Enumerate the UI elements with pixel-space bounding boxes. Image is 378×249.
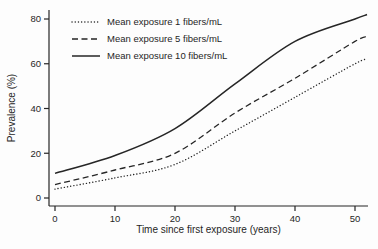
- x-tick-label: 50: [350, 213, 361, 224]
- x-tick-label: 10: [110, 213, 121, 224]
- y-tick-label: 80: [30, 13, 41, 24]
- y-axis: [44, 10, 49, 206]
- x-tick-label: 40: [290, 213, 301, 224]
- legend-label: Mean exposure 1 fibers/mL: [107, 16, 222, 27]
- legend-item: Mean exposure 10 fibers/mL: [72, 50, 227, 61]
- x-axis-title: Time since first exposure (years): [49, 224, 368, 235]
- legend-label: Mean exposure 5 fibers/mL: [107, 33, 222, 44]
- legend-item: Mean exposure 1 fibers/mL: [72, 16, 222, 27]
- x-tick-label: 0: [52, 213, 57, 224]
- curve-dotted: [55, 59, 367, 189]
- x-tick-labels: 01020304050: [52, 213, 360, 224]
- x-tick-label: 30: [230, 213, 241, 224]
- legend-label: Mean exposure 10 fibers/mL: [107, 50, 227, 61]
- y-axis-title: Prevalence (%): [6, 74, 17, 142]
- chart-container: 01020304050020406080Mean exposure 1 fibe…: [0, 0, 378, 249]
- y-tick-labels: 020406080: [30, 13, 41, 203]
- y-tick-label: 20: [30, 148, 41, 159]
- y-tick-label: 60: [30, 58, 41, 69]
- legend: Mean exposure 1 fibers/mLMean exposure 5…: [72, 16, 227, 61]
- x-axis: [49, 206, 368, 211]
- legend-item: Mean exposure 5 fibers/mL: [72, 33, 222, 44]
- y-tick-label: 0: [36, 192, 41, 203]
- chart-svg: 01020304050020406080Mean exposure 1 fibe…: [0, 0, 378, 249]
- y-tick-label: 40: [30, 103, 41, 114]
- x-tick-label: 20: [170, 213, 181, 224]
